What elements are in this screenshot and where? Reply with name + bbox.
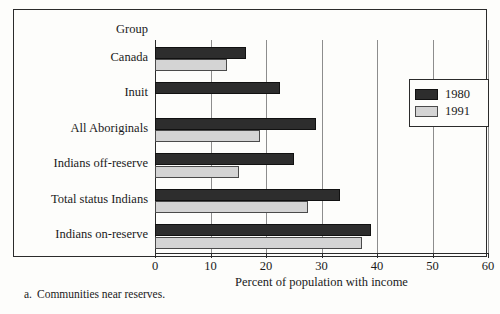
category-label-4: Total status Indians <box>51 192 148 207</box>
category-label-group: CanadaInuitAll AboriginalsIndians off-re… <box>14 40 148 258</box>
figure-footnote: a.Communities near reserves. <box>24 288 165 300</box>
x-tick-0 <box>155 253 156 258</box>
bar-1980-5 <box>155 224 371 236</box>
x-tick-label: 10 <box>204 259 217 274</box>
category-label-0: Canada <box>111 50 148 65</box>
gridline-0 <box>155 40 156 253</box>
footnote-text: Communities near reserves. <box>37 288 165 300</box>
legend-label: 1991 <box>445 104 470 119</box>
x-tick-20 <box>266 253 267 258</box>
x-tick-label: 20 <box>260 259 273 274</box>
figure-frame: Group CanadaInuitAll AboriginalsIndians … <box>13 9 487 257</box>
plot-area: 0102030405060 <box>155 40 488 258</box>
x-tick-label: 0 <box>152 259 158 274</box>
category-label-5: Indians on-reserve <box>55 227 148 242</box>
gridline-30 <box>322 40 323 253</box>
gridline-50 <box>433 40 434 253</box>
legend-item-1980: 1980 <box>415 87 482 102</box>
bar-1980-3 <box>155 153 294 165</box>
legend-swatch-1991 <box>415 106 438 117</box>
x-tick-30 <box>322 253 323 258</box>
group-axis-header: Group <box>14 22 148 37</box>
gridline-10 <box>211 40 212 253</box>
legend-swatch-1980 <box>415 89 438 100</box>
gridline-40 <box>377 40 378 253</box>
x-tick-40 <box>377 253 378 258</box>
category-label-2: All Aboriginals <box>71 121 148 136</box>
bar-1991-0 <box>155 59 227 71</box>
footnote-marker: a. <box>24 288 32 300</box>
x-tick-label: 30 <box>315 259 328 274</box>
x-tick-60 <box>488 253 489 258</box>
x-tick-label: 60 <box>482 259 495 274</box>
x-tick-label: 40 <box>371 259 384 274</box>
chart-legend: 19801991 <box>409 79 489 127</box>
x-tick-10 <box>211 253 212 258</box>
figure-page: Group CanadaInuitAll AboriginalsIndians … <box>0 0 500 314</box>
bar-1980-2 <box>155 118 316 130</box>
legend-item-1991: 1991 <box>415 104 482 119</box>
bar-1991-3 <box>155 166 239 178</box>
x-tick-50 <box>433 253 434 258</box>
legend-label: 1980 <box>445 87 470 102</box>
x-tick-label: 50 <box>426 259 439 274</box>
bar-1991-2 <box>155 130 260 142</box>
bar-1980-1 <box>155 82 280 94</box>
bar-1991-4 <box>155 201 308 213</box>
x-axis-label: Percent of population with income <box>155 275 488 290</box>
bar-1991-5 <box>155 237 362 249</box>
category-label-1: Inuit <box>124 85 148 100</box>
bar-1980-0 <box>155 47 246 59</box>
gridline-20 <box>266 40 267 253</box>
bar-1980-4 <box>155 189 340 201</box>
category-label-3: Indians off-reserve <box>53 156 148 171</box>
gridline-60 <box>488 40 489 253</box>
